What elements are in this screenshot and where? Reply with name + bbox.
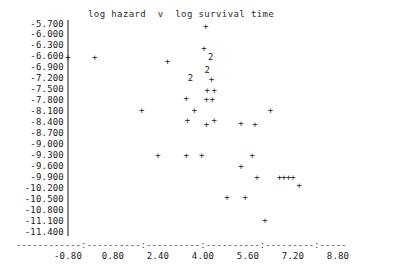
y-axis-tick-label: -9.900	[30, 173, 64, 182]
data-point: +	[290, 173, 295, 182]
y-axis-tick-label: -8.700	[30, 129, 64, 138]
data-point: +	[204, 95, 209, 104]
y-axis-tick-label: -6.300	[30, 41, 64, 50]
y-axis-tick-label: -8.400	[30, 118, 64, 127]
y-axis-tick-label: -6.600	[30, 52, 64, 61]
data-point: +	[183, 151, 188, 160]
y-axis-tick-label: -10.500	[25, 195, 64, 204]
data-point: +	[209, 74, 214, 83]
x-axis-tick-label: 8.80	[327, 252, 349, 261]
y-axis-tick-label: -7.800	[30, 96, 64, 105]
x-axis-tick-label: 4.00	[192, 252, 214, 261]
x-axis-tick-labels: -0.800.802.404.005.607.208.80	[0, 252, 415, 266]
chart-title: log hazard v log survival time	[88, 9, 274, 19]
scatter-plot-figure: log hazard v log survival time -5.700-6.…	[0, 0, 415, 274]
y-axis-tick-label: -7.200	[30, 74, 64, 83]
y-axis-tick-label: -10.200	[25, 184, 64, 193]
y-axis-tick-label: -9.600	[30, 162, 64, 171]
data-point: +	[238, 118, 243, 127]
x-axis-tick-label: 0.80	[102, 252, 124, 261]
data-point: +	[210, 95, 215, 104]
data-point: +	[203, 22, 208, 31]
data-point: +	[192, 105, 197, 114]
data-point: +	[204, 119, 209, 128]
x-axis-tick-label: 5.60	[237, 252, 259, 261]
y-axis-tick-label: -11.100	[25, 217, 64, 226]
data-point: +	[92, 52, 97, 61]
y-axis-tick-label: -10.800	[25, 206, 64, 215]
data-point: +	[242, 193, 247, 202]
y-axis-tick-label: -5.700	[30, 20, 64, 29]
data-point: +	[185, 115, 190, 124]
y-axis-tick-label: -11.400	[25, 228, 64, 237]
y-axis-tick-label: -7.500	[30, 85, 64, 94]
data-point: +	[212, 115, 217, 124]
y-axis-tick-label: -8.100	[30, 107, 64, 116]
x-axis-tick-label: 2.40	[147, 252, 169, 261]
x-axis-line: ------------:----------:----------:-----…	[16, 241, 346, 251]
y-axis-tick-label: -6.000	[30, 30, 64, 39]
data-point: +	[238, 162, 243, 171]
plot-area: ++++2+22++++++++++++++++++++++++++++	[67, 20, 411, 236]
data-point: +	[262, 216, 267, 225]
x-axis-tick-label: 7.20	[282, 252, 304, 261]
y-axis-tick-label: -9.000	[30, 140, 64, 149]
data-point: +	[250, 151, 255, 160]
data-point: +	[296, 181, 301, 190]
y-axis-tick-label: -9.300	[30, 151, 64, 160]
data-point: +	[268, 105, 273, 114]
data-point: +	[165, 57, 170, 66]
data-point: +	[201, 44, 206, 53]
data-point: +	[183, 93, 188, 102]
x-axis-tick-label: -0.80	[54, 252, 82, 261]
data-point: +	[199, 151, 204, 160]
data-point-overlap: 2	[208, 52, 213, 61]
data-point: +	[155, 151, 160, 160]
data-point-overlap: 2	[188, 73, 193, 82]
y-axis-tick-label: -6.900	[30, 63, 64, 72]
data-point: +	[252, 119, 257, 128]
data-point: +	[254, 173, 259, 182]
data-point: +	[139, 105, 144, 114]
data-point: +	[65, 52, 70, 61]
data-point: +	[224, 193, 229, 202]
